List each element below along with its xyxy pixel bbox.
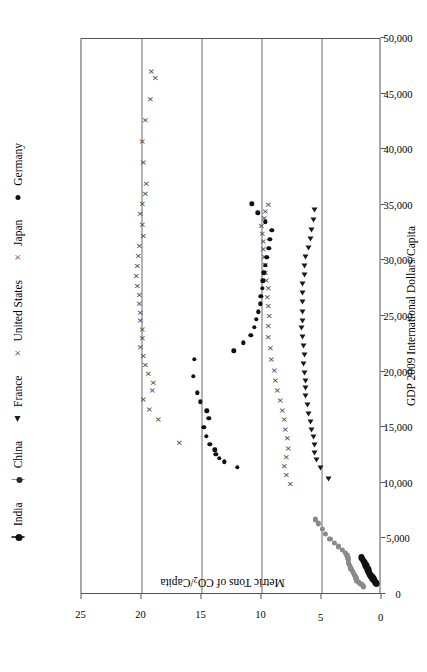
data-point-united-states: × xyxy=(136,316,145,325)
data-point-germany xyxy=(213,452,217,456)
y-axis-title-tail: /Capita xyxy=(160,577,193,589)
data-point-japan: × xyxy=(271,376,280,385)
data-point-germany xyxy=(248,333,252,337)
y-axis-tick-label: 5 xyxy=(317,612,322,623)
vline-dot-gray-marker-icon xyxy=(11,473,24,486)
data-point-germany xyxy=(195,391,199,395)
y-axis-tick xyxy=(140,594,141,599)
data-point-china xyxy=(312,517,317,522)
y-axis-title-subscript: 2 xyxy=(193,575,197,585)
y-axis-tick-label: 15 xyxy=(195,609,206,620)
data-point-japan: × xyxy=(267,355,276,364)
y-axis-tick-label: 10 xyxy=(255,609,266,620)
legend-item-label: France xyxy=(11,376,24,407)
data-point-united-states: × xyxy=(146,95,155,104)
data-point-germany xyxy=(204,408,208,412)
chart-figure: IndiaChinaFrance×United States×JapanGerm… xyxy=(0,0,427,672)
legend-item-united-states[interactable]: ×United States xyxy=(8,280,26,360)
data-point-france xyxy=(310,435,316,440)
data-point-japan: × xyxy=(282,471,291,480)
data-point-france xyxy=(299,290,305,295)
data-point-japan: × xyxy=(266,344,275,353)
data-point-germany xyxy=(231,348,235,352)
data-point-germany xyxy=(249,202,253,206)
data-point-france xyxy=(302,255,308,260)
data-point-germany xyxy=(198,400,202,404)
data-point-france xyxy=(308,228,314,233)
legend-item-france[interactable]: France xyxy=(8,376,26,425)
y-axis-tick xyxy=(320,594,321,599)
data-point-germany xyxy=(258,302,262,306)
data-point-japan: × xyxy=(263,322,272,331)
data-point-united-states: × xyxy=(153,415,162,424)
data-point-japan: × xyxy=(282,434,291,443)
data-point-united-states: × xyxy=(132,272,141,281)
data-point-france xyxy=(311,443,317,448)
data-point-united-states: × xyxy=(175,438,184,447)
data-point-germany xyxy=(207,442,211,446)
data-point-united-states: × xyxy=(133,282,142,291)
data-point-japan: × xyxy=(284,444,293,453)
data-point-france xyxy=(299,299,305,304)
data-point-united-states: × xyxy=(132,262,141,271)
data-point-france xyxy=(310,218,316,223)
legend-item-label: United States xyxy=(11,280,24,342)
y-axis-title: Metric Tons of CO2/Capita xyxy=(72,575,372,589)
legend-item-germany[interactable]: Germany xyxy=(8,143,26,204)
data-point-united-states: × xyxy=(135,308,144,317)
data-point-france xyxy=(311,208,317,213)
data-point-france xyxy=(302,386,308,391)
data-point-germany xyxy=(253,317,257,321)
data-point-japan: × xyxy=(278,406,287,415)
data-point-japan: × xyxy=(281,425,290,434)
data-point-germany xyxy=(266,246,270,250)
data-point-france xyxy=(311,450,317,455)
legend-item-label: Germany xyxy=(11,143,24,186)
data-point-united-states: × xyxy=(138,137,147,146)
data-point-france xyxy=(305,411,311,416)
data-point-germany xyxy=(201,425,205,429)
x-marker-icon: × xyxy=(11,347,24,360)
data-point-united-states: × xyxy=(144,369,153,378)
data-point-china xyxy=(335,544,340,549)
data-point-germany xyxy=(241,341,245,345)
data-point-germany xyxy=(190,374,194,378)
data-point-india xyxy=(358,554,364,560)
data-point-japan: × xyxy=(258,229,267,238)
data-point-france xyxy=(304,403,310,408)
data-point-japan: × xyxy=(264,333,273,342)
data-point-united-states: × xyxy=(139,395,148,404)
legend-item-japan[interactable]: ×Japan xyxy=(8,220,26,264)
data-point-germany xyxy=(261,271,265,275)
data-point-united-states: × xyxy=(149,378,158,387)
legend-item-china[interactable]: China xyxy=(8,441,26,486)
data-point-france xyxy=(300,344,306,349)
data-point-germany xyxy=(192,357,196,361)
data-point-france xyxy=(301,370,307,375)
data-point-united-states: × xyxy=(137,325,146,334)
legend-item-india[interactable]: India xyxy=(8,502,26,544)
data-point-united-states: × xyxy=(137,199,146,208)
vline-dot-marker-icon xyxy=(11,531,24,544)
data-point-united-states: × xyxy=(147,67,156,76)
plot-area: ××××××××××××××××××××××××××××××××××××××××… xyxy=(80,38,380,594)
gridline-y-15 xyxy=(201,39,202,593)
data-point-japan: × xyxy=(263,302,272,311)
data-point-france xyxy=(300,361,306,366)
y-axis-tick-label: 20 xyxy=(135,609,146,620)
data-point-france xyxy=(308,427,314,432)
gridline-y-5 xyxy=(321,39,322,593)
data-point-germany xyxy=(255,211,259,215)
data-point-united-states: × xyxy=(135,209,144,218)
data-point-france xyxy=(301,353,307,358)
data-point-united-states: × xyxy=(147,386,156,395)
data-point-germany xyxy=(267,237,271,241)
data-point-united-states: × xyxy=(135,343,144,352)
y-axis-tick xyxy=(380,594,381,599)
data-point-germany xyxy=(217,456,221,460)
x-axis-tick-label: 0 xyxy=(395,589,400,600)
data-point-france xyxy=(313,457,319,462)
data-point-france xyxy=(305,246,311,251)
legend-item-label: India xyxy=(11,502,24,526)
y-axis-tick xyxy=(80,594,81,599)
